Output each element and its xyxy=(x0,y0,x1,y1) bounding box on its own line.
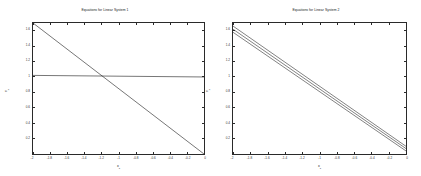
ytick-label: 0.2 xyxy=(18,138,30,141)
xtick-top xyxy=(233,23,234,25)
xtick-label: -0.2 xyxy=(185,157,190,160)
xtick xyxy=(101,152,102,154)
xtick-top xyxy=(302,23,303,25)
xtick-top xyxy=(101,23,102,25)
xtick-label: -1.6 xyxy=(264,157,269,160)
ytick-right xyxy=(404,76,406,77)
xtick xyxy=(302,152,303,154)
ytick-right xyxy=(404,61,406,62)
xtick-label: -0.2 xyxy=(387,157,392,160)
xtick xyxy=(67,152,68,154)
xtick xyxy=(50,152,51,154)
xtick-top xyxy=(187,23,188,25)
xtick xyxy=(337,152,338,154)
ytick-right xyxy=(404,107,406,108)
panel-title: Equations for Linear System 1 xyxy=(0,8,210,12)
xtick-top xyxy=(119,23,120,25)
ytick-right xyxy=(202,46,204,47)
xtick-top xyxy=(406,23,407,25)
ytick xyxy=(33,61,35,62)
ytick-label: 1.4 xyxy=(18,44,30,47)
ytick-label: 0.4 xyxy=(18,122,30,125)
ytick-label: 0.8 xyxy=(18,91,30,94)
y-axis-label-sub: 2 xyxy=(208,89,211,90)
plot-area xyxy=(33,23,204,154)
xtick-label: -1.6 xyxy=(64,157,69,160)
xtick-top xyxy=(136,23,137,25)
ytick-label: 0.4 xyxy=(218,122,230,125)
y-axis-label-main: x xyxy=(4,90,8,92)
ytick-label: 1 xyxy=(218,75,230,78)
xtick-label: 0 xyxy=(204,157,206,160)
ytick-label: 1 xyxy=(18,75,30,78)
ytick-right xyxy=(202,76,204,77)
xtick-label: -1.8 xyxy=(247,157,252,160)
xtick-label: -1 xyxy=(318,157,321,160)
xtick xyxy=(153,152,154,154)
xtick-label: -0.8 xyxy=(133,157,138,160)
ytick xyxy=(233,107,235,108)
xtick-label: -0.6 xyxy=(352,157,357,160)
y-axis-label-sub: 2 xyxy=(7,89,10,90)
ytick xyxy=(33,46,35,47)
ytick-label: 1.2 xyxy=(18,59,30,62)
ytick xyxy=(233,92,235,93)
line-equation-1 xyxy=(233,26,406,146)
line-equation-2 xyxy=(33,75,204,77)
ytick xyxy=(33,76,35,77)
xtick-label: -1.4 xyxy=(81,157,86,160)
ytick-right xyxy=(202,138,204,139)
plot-area xyxy=(233,23,406,154)
xtick-label: -2 xyxy=(31,157,34,160)
panel-title: Equations for Linear System 2 xyxy=(211,8,421,12)
ytick xyxy=(233,46,235,47)
xtick xyxy=(320,152,321,154)
ytick-right xyxy=(404,30,406,31)
xtick-top xyxy=(354,23,355,25)
ytick-label: 1.4 xyxy=(218,44,230,47)
xtick-label: -0.6 xyxy=(150,157,155,160)
data-lines xyxy=(33,23,204,154)
xtick-top xyxy=(67,23,68,25)
x-axis-label: x1 xyxy=(117,164,120,171)
line-equation-1 xyxy=(33,23,204,154)
xtick-label: 0 xyxy=(406,157,408,160)
ytick-right xyxy=(404,123,406,124)
xtick xyxy=(371,152,372,154)
y-axis-label: x2 xyxy=(4,89,11,92)
xtick-label: -1 xyxy=(117,157,120,160)
xtick xyxy=(268,152,269,154)
xtick-top xyxy=(371,23,372,25)
ytick xyxy=(233,123,235,124)
xtick xyxy=(33,152,34,154)
xtick-top xyxy=(250,23,251,25)
xtick-top xyxy=(337,23,338,25)
xtick-top xyxy=(84,23,85,25)
ytick-label: 0.8 xyxy=(218,91,230,94)
ytick-right xyxy=(202,61,204,62)
xtick-top xyxy=(389,23,390,25)
ytick-label: 1.6 xyxy=(218,28,230,31)
xtick-label: -0.8 xyxy=(334,157,339,160)
xtick xyxy=(136,152,137,154)
ytick-right xyxy=(404,46,406,47)
xtick-label: -1.2 xyxy=(99,157,104,160)
xtick-top xyxy=(204,23,205,25)
x-axis-label-sub: 1 xyxy=(320,167,321,170)
xtick xyxy=(389,152,390,154)
xtick-top xyxy=(268,23,269,25)
xtick-top xyxy=(153,23,154,25)
xtick-top xyxy=(285,23,286,25)
xtick-top xyxy=(320,23,321,25)
ytick-right xyxy=(202,107,204,108)
xtick-top xyxy=(50,23,51,25)
ytick xyxy=(33,138,35,139)
xtick xyxy=(119,152,120,154)
axes-frame xyxy=(232,22,407,155)
xtick-label: -1.2 xyxy=(299,157,304,160)
ytick-right xyxy=(202,123,204,124)
ytick xyxy=(33,107,35,108)
ytick xyxy=(233,138,235,139)
xtick-label: -1.8 xyxy=(47,157,52,160)
ytick-right xyxy=(404,92,406,93)
